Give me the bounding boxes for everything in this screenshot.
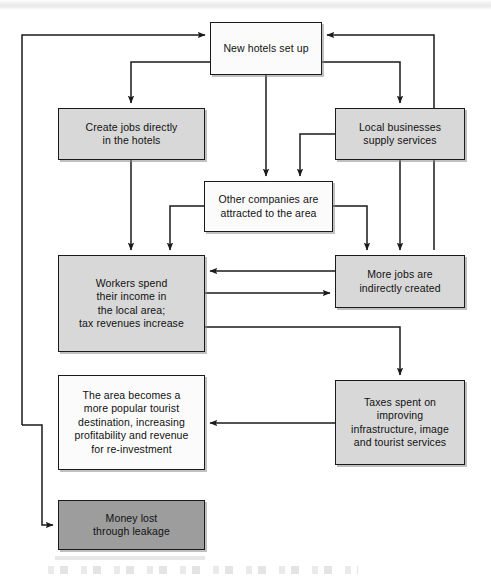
node-label: Workers spend their income in the local … (74, 277, 189, 331)
node-area-becomes[interactable]: The area becomes a more popular tourist … (58, 375, 205, 470)
wire-other-companies-to-more-jobs (333, 206, 367, 250)
node-workers-spend[interactable]: Workers spend their income in the local … (58, 255, 205, 352)
node-label: New hotels set up (218, 42, 313, 55)
wire-area-to-money-lost (22, 425, 53, 525)
wire-area-to-new-hotels (22, 35, 205, 425)
node-label: Create jobs directly in the hotels (81, 121, 183, 148)
wire-new-hotels-to-create-jobs (131, 62, 210, 103)
node-label: The area becomes a more popular tourist … (70, 389, 194, 456)
node-new-hotels[interactable]: New hotels set up (210, 22, 322, 75)
node-taxes-spent[interactable]: Taxes spent on improving infrastructure,… (335, 380, 465, 465)
caption-artifact (48, 566, 358, 574)
wire-local-businesses-to-other-companies (300, 134, 335, 176)
wire-other-companies-to-workers (170, 206, 204, 250)
node-label: More jobs are indirectly created (354, 268, 445, 295)
node-local-businesses[interactable]: Local businesses supply services (335, 108, 465, 160)
diagram-canvas: New hotels set up Create jobs directly i… (0, 0, 491, 577)
node-label: Taxes spent on improving infrastructure,… (346, 396, 454, 450)
wire-workers-to-taxes (205, 327, 400, 375)
node-label: Other companies are attracted to the are… (214, 193, 324, 220)
wire-new-hotels-to-local-businesses (322, 62, 400, 103)
node-label: Money lost through leakage (88, 512, 175, 539)
node-other-companies[interactable]: Other companies are attracted to the are… (204, 181, 333, 232)
node-money-lost[interactable]: Money lost through leakage (58, 500, 205, 550)
node-create-jobs[interactable]: Create jobs directly in the hotels (58, 108, 205, 160)
scan-artifact-top (0, 0, 491, 10)
node-label: Local businesses supply services (354, 121, 446, 148)
node-more-jobs[interactable]: More jobs are indirectly created (335, 255, 465, 308)
scan-artifact-bottom (55, 556, 205, 560)
